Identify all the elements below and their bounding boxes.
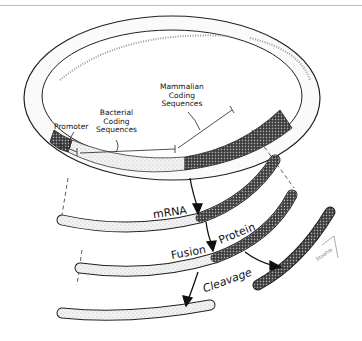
bacterial-label-line: Sequences	[96, 126, 137, 135]
fusion-protein-diagram	[0, 0, 362, 341]
promoter-label: Promoter	[54, 123, 88, 132]
bacterial-fragment	[62, 305, 210, 315]
mammalian-label-line: Sequences	[160, 100, 204, 109]
mammalian-label: Mammalian Coding Sequences	[160, 83, 204, 109]
bacterial-label: Bacterial Coding Sequences	[96, 109, 137, 135]
